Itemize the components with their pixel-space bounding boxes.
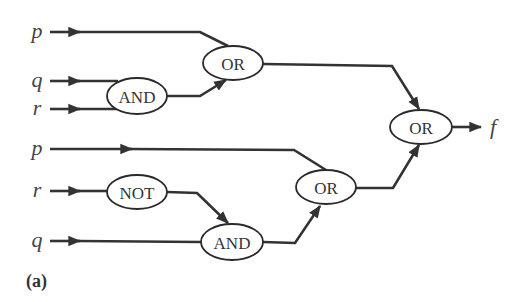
wire-or2-to-or3 [356, 145, 419, 188]
input-label-q-top: q [32, 67, 43, 92]
wire-p1-to-or1 [50, 32, 228, 46]
wire-p2-to-or2 [50, 149, 326, 170]
wire-and2-to-or2 [263, 206, 320, 243]
output-label-f: f [490, 114, 499, 139]
gate-label: OR [409, 119, 433, 138]
gate-label: AND [119, 88, 156, 107]
gate-label: OR [221, 55, 245, 74]
input-label-r-top: r [33, 95, 42, 120]
gate-label: AND [214, 234, 251, 253]
gate-and-top: AND [107, 78, 167, 114]
input-label-p-bottom: p [30, 135, 43, 160]
input-label-p-top: p [30, 18, 43, 43]
gate-label: OR [314, 179, 338, 198]
figure-caption: (a) [26, 271, 47, 292]
wire-or1-to-or3 [263, 64, 419, 109]
wire-q2-to-and2 [50, 241, 201, 242]
logic-circuit-diagram: AND OR NOT AND OR OR p q r p r q f (a) [0, 0, 529, 302]
wire-not-to-and2 [167, 192, 228, 223]
input-label-r-bottom: r [33, 177, 42, 202]
wire-and1-to-or1 [167, 80, 226, 96]
gate-or-top: OR [203, 46, 263, 80]
input-label-q-bottom: q [32, 227, 43, 252]
gate-or-middle: OR [296, 170, 356, 204]
gate-or-final: OR [390, 110, 452, 144]
gate-label: NOT [120, 184, 156, 203]
gate-and-bottom: AND [201, 224, 263, 260]
gate-not: NOT [107, 175, 167, 209]
